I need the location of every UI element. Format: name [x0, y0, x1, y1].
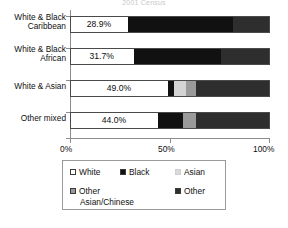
legend-label-asian: Asian [184, 167, 205, 177]
bar-segment-other [196, 113, 269, 128]
legend-swatch-other-icon [175, 188, 181, 194]
legend-item-other: Other [175, 186, 205, 196]
bar-segment-white [71, 113, 158, 128]
legend-swatch-black-icon [120, 169, 126, 175]
bar-segment-black [128, 17, 233, 32]
category-label-line2: African [0, 54, 66, 63]
bar-segment-other [196, 81, 269, 96]
bar-segment-black [158, 113, 183, 128]
legend-item-other-asian-chinese: Other [70, 186, 100, 196]
legend-swatch-other-asian-chinese-icon [70, 188, 76, 194]
x-axis-label-50: 50% [158, 144, 175, 154]
bar-segment-white [71, 17, 128, 32]
x-axis-label-0: 0% [60, 144, 72, 154]
plot-area: White & Black Caribbean White & Black Af… [0, 10, 288, 138]
legend-label-other-asian-chinese: Other [79, 186, 100, 196]
bar-segment-other-asian-chinese [186, 81, 196, 96]
category-label-white-black-caribbean: White & Black Caribbean [0, 13, 70, 32]
category-label-line2: Caribbean [0, 22, 66, 31]
chart-legend: White Black Asian Other Asian/Chinese Ot… [62, 160, 226, 210]
x-axis-tick [70, 138, 71, 143]
legend-item-asian: Asian [175, 167, 205, 177]
stacked-bar-chart: 2001 Census White & Black Caribbean Whit… [0, 0, 288, 228]
category-label-other-mixed: Other mixed [0, 114, 70, 123]
bar-segment-other-asian-chinese [183, 113, 196, 128]
bar-segment-other [233, 17, 269, 32]
legend-label-other-asian-chinese-line2: Asian/Chinese [80, 197, 134, 207]
legend-label-white: White [79, 167, 100, 177]
bar-segment-white [71, 49, 134, 64]
stacked-bar-white-black-african [70, 48, 270, 65]
legend-item-black: Black [120, 167, 149, 177]
category-label-line1: White & Asian [0, 82, 66, 91]
stacked-bar-other-mixed [70, 112, 270, 129]
category-label-white-black-african: White & Black African [0, 45, 70, 64]
category-label-white-asian: White & Asian [0, 82, 70, 91]
chart-title: 2001 Census [0, 0, 288, 7]
x-axis-tick [269, 138, 270, 143]
category-label-line1: Other mixed [0, 114, 66, 123]
bar-segment-asian [174, 81, 186, 96]
stacked-bar-white-asian [70, 80, 270, 97]
bar-segment-white [71, 81, 168, 96]
legend-swatch-asian-icon [175, 169, 181, 175]
x-axis-label-100: 100% [253, 144, 274, 154]
bar-segment-other [221, 49, 269, 64]
x-axis-tick [170, 138, 171, 143]
legend-label-other: Other [184, 186, 205, 196]
legend-swatch-white-icon [70, 169, 76, 175]
legend-label-black: Black [129, 167, 149, 177]
bar-segment-black [134, 49, 221, 64]
legend-item-white: White [70, 167, 100, 177]
stacked-bar-white-black-caribbean [70, 16, 270, 33]
